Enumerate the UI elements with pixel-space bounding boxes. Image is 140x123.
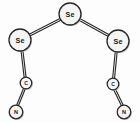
molecular-structure-figure: SeSeSeCCNN [0,0,140,123]
molecule-diagram-canvas: SeSeSeCCNN [0,0,140,123]
central-selenium-atom: Se [59,3,82,26]
right-nitrogen-atom: N [117,105,132,120]
bond-right-carbon-to-right-nitrogen [114,89,123,106]
bond-central-se-to-right-se-stroke-2 [79,20,108,36]
left-selenium-atom: Se [9,29,32,52]
bond-central-se-to-left-se-stroke-2 [29,18,60,34]
bond-left-se-to-left-carbon [21,51,26,78]
left-nitrogen-atom-label: N [14,109,18,115]
bond-layer [17,18,123,105]
bond-left-carbon-to-left-nitrogen [17,88,25,105]
left-carbon-atom: C [20,77,33,90]
bond-central-se-to-right-se [79,19,108,36]
right-selenium-atom: Se [107,30,130,53]
right-carbon-atom: C [107,78,120,91]
bond-right-se-to-right-carbon [113,52,118,79]
right-nitrogen-atom-label: N [122,109,126,115]
bond-central-se-to-left-se-stroke-1 [30,20,61,36]
bond-central-se-to-left-se [29,18,61,36]
left-selenium-atom-label: Se [16,36,25,45]
right-carbon-atom-label: C [111,81,115,87]
central-selenium-atom-label: Se [66,10,75,19]
left-carbon-atom-label: C [24,80,28,86]
left-nitrogen-atom: N [9,105,24,120]
bond-central-se-to-right-se-stroke-1 [80,19,109,35]
bond-right-carbon-to-right-nitrogen-stroke-2 [114,90,122,106]
bond-right-carbon-to-right-nitrogen-stroke-1 [115,89,123,105]
right-selenium-atom-label: Se [114,37,123,46]
atom-layer: SeSeSeCCNN [9,3,132,120]
